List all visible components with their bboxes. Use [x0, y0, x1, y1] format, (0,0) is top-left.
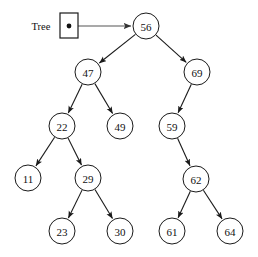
tree-node[interactable]: 30 [107, 218, 133, 244]
tree-node[interactable]: 49 [107, 113, 133, 139]
tree-node[interactable]: 22 [49, 113, 75, 139]
tree-node-label: 62 [191, 174, 202, 186]
tree-node-label: 30 [115, 226, 127, 238]
tree-node-label: 11 [23, 173, 34, 185]
tree-node-label: 22 [57, 121, 68, 133]
tree-node-label: 56 [141, 21, 153, 33]
root-pointer-dot [67, 24, 72, 29]
nodes-layer: 56476922495911296223306164 [15, 13, 243, 244]
tree-edge [178, 191, 190, 218]
tree-diagram-svg: Tree 56476922495911296223306164 [0, 0, 258, 257]
tree-node[interactable]: 62 [183, 166, 209, 192]
tree-edge [95, 190, 113, 219]
tree-node[interactable]: 29 [75, 165, 101, 191]
tree-edge [178, 84, 191, 113]
tree-node[interactable]: 56 [133, 13, 159, 39]
tree-node[interactable]: 47 [75, 59, 101, 85]
tree-node-label: 29 [83, 173, 95, 185]
root-pointer-label: Tree [32, 21, 51, 32]
tree-node[interactable]: 61 [159, 218, 185, 244]
tree-node-label: 47 [83, 67, 95, 79]
tree-node[interactable]: 11 [15, 165, 41, 191]
root-pointer-group: Tree [32, 13, 131, 38]
tree-node-label: 59 [167, 121, 179, 133]
tree-edge [68, 190, 82, 218]
tree-node[interactable]: 69 [184, 59, 210, 85]
tree-node-label: 64 [225, 226, 237, 238]
tree-edge [36, 137, 55, 166]
tree-edge [99, 34, 135, 63]
tree-edge [95, 84, 113, 114]
tree-node-label: 69 [192, 67, 204, 79]
tree-node-label: 23 [57, 226, 69, 238]
tree-node-label: 61 [167, 226, 178, 238]
tree-node[interactable]: 23 [49, 218, 75, 244]
tree-edge [156, 35, 186, 62]
tree-edge [178, 138, 190, 165]
tree-edge [68, 138, 81, 165]
tree-node[interactable]: 59 [159, 113, 185, 139]
tree-edge [203, 190, 222, 219]
tree-diagram-canvas: Tree 56476922495911296223306164 [0, 0, 258, 257]
tree-node[interactable]: 64 [217, 218, 243, 244]
tree-edge [68, 84, 82, 113]
tree-node-label: 49 [115, 121, 127, 133]
